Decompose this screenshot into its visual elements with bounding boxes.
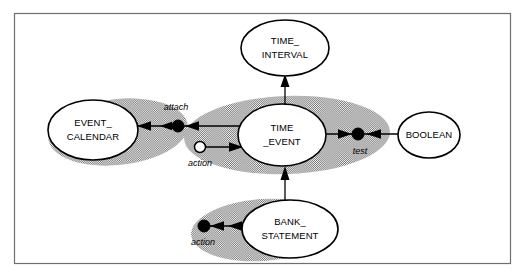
entity-time-interval-label-line2: INTERVAL bbox=[262, 49, 308, 60]
entity-time-interval[interactable]: TIME_ INTERVAL bbox=[241, 20, 329, 76]
entities: EVENT_ CALENDAR TIME _EVENT TIME_ INTERV… bbox=[48, 20, 460, 258]
label-action-calendar: action bbox=[188, 158, 212, 168]
attach-relationship-dot bbox=[172, 120, 184, 132]
label-action-bank: action bbox=[191, 237, 215, 247]
entity-time-event[interactable]: TIME _EVENT bbox=[238, 104, 326, 166]
test-relationship-dot bbox=[352, 128, 364, 140]
diagram-figure: EVENT_ CALENDAR TIME _EVENT TIME_ INTERV… bbox=[0, 0, 525, 278]
entity-bank-statement-label-line2: STATEMENT bbox=[261, 230, 318, 241]
entity-event-calendar[interactable]: EVENT_ CALENDAR bbox=[48, 100, 138, 160]
entity-bank-statement-label-line1: BANK_ bbox=[274, 216, 306, 227]
entity-boolean-label-line1: BOOLEAN bbox=[406, 129, 453, 140]
action-bank-relationship-dot bbox=[198, 220, 210, 232]
action-calendar-relationship-dot bbox=[195, 142, 206, 153]
entity-event-calendar-label-line1: EVENT_ bbox=[74, 117, 112, 128]
diagram-canvas: EVENT_ CALENDAR TIME _EVENT TIME_ INTERV… bbox=[0, 0, 525, 278]
entity-time-event-label-line1: TIME bbox=[270, 122, 293, 133]
entity-event-calendar-label-line2: CALENDAR bbox=[67, 131, 120, 142]
entity-time-event-label-line2: _EVENT bbox=[262, 136, 301, 147]
entity-boolean[interactable]: BOOLEAN bbox=[398, 112, 460, 158]
entity-time-interval-label-line1: TIME_ bbox=[271, 35, 300, 46]
label-attach: attach bbox=[164, 102, 189, 112]
entity-bank-statement[interactable]: BANK_ STATEMENT bbox=[242, 200, 338, 258]
label-test: test bbox=[353, 146, 368, 156]
